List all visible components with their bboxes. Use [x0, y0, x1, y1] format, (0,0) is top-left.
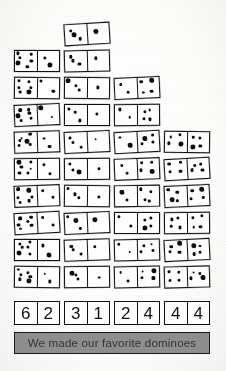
domino-row: [13, 103, 213, 128]
domino-pip: [28, 112, 31, 115]
domino-tile[interactable]: [114, 238, 161, 261]
number-domino-half-left: 2: [115, 302, 138, 324]
domino-pip: [30, 195, 33, 198]
domino-pip: [177, 270, 180, 273]
domino-tile[interactable]: [164, 265, 211, 288]
domino-pip: [178, 161, 181, 164]
domino-pip: [167, 141, 170, 144]
domino-half-left: [15, 78, 38, 98]
domino-half-left: [115, 132, 139, 153]
domino-tile[interactable]: [14, 239, 60, 261]
domino-tile[interactable]: [114, 266, 160, 289]
domino-pip: [18, 57, 21, 60]
domino-pip: [126, 280, 129, 283]
domino-tile[interactable]: [14, 103, 61, 127]
domino-tile[interactable]: [113, 130, 160, 154]
domino-tile[interactable]: [64, 104, 110, 126]
domino-tile[interactable]: [64, 185, 110, 208]
domino-tile[interactable]: [64, 77, 110, 99]
domino-pip: [170, 225, 173, 228]
domino-tile[interactable]: [164, 131, 210, 154]
domino-tile[interactable]: [13, 211, 60, 236]
domino-tile[interactable]: [64, 238, 111, 262]
domino-half-left: [15, 51, 38, 71]
domino-half-left: [65, 213, 88, 234]
domino-pip: [78, 119, 81, 122]
number-domino-tile[interactable]: 31: [64, 301, 110, 325]
domino-tile[interactable]: [64, 49, 111, 72]
domino-tile[interactable]: [64, 211, 111, 235]
domino-pip: [47, 252, 52, 257]
domino-half-left: [15, 105, 38, 126]
domino-slot: [13, 265, 63, 290]
domino-pip: [150, 169, 155, 174]
domino-half-right: [87, 159, 109, 179]
domino-pip: [29, 143, 32, 146]
domino-pip: [152, 276, 155, 279]
domino-pip: [42, 244, 45, 247]
domino-pip: [143, 218, 146, 221]
domino-half-right: [137, 213, 159, 233]
domino-half-right: [187, 132, 209, 152]
domino-tile[interactable]: [114, 76, 161, 100]
domino-pip: [170, 245, 173, 248]
domino-tile[interactable]: [14, 50, 60, 72]
domino-pip: [119, 271, 122, 274]
domino-tile[interactable]: [163, 157, 210, 182]
domino-pip: [190, 189, 193, 192]
domino-tile[interactable]: [114, 104, 160, 126]
domino-half-left: [15, 132, 38, 153]
number-domino-tile[interactable]: 62: [14, 301, 60, 325]
domino-slot: [113, 103, 163, 128]
domino-tile[interactable]: [14, 158, 60, 180]
number-domino-half-right: 2: [38, 302, 60, 324]
number-domino-half-left: 4: [165, 302, 188, 324]
number-domino-half-left: 3: [65, 302, 88, 324]
domino-pip: [149, 225, 152, 228]
domino-tile[interactable]: [14, 266, 60, 289]
domino-tile[interactable]: [14, 77, 60, 100]
domino-slot: [13, 238, 63, 263]
domino-half-left: [115, 213, 138, 233]
number-domino-tile[interactable]: 44: [164, 301, 210, 325]
domino-slot: [113, 211, 163, 236]
domino-tile[interactable]: [164, 212, 210, 234]
domino-pip: [143, 198, 146, 201]
domino-tile[interactable]: [63, 22, 110, 47]
domino-tile[interactable]: [164, 184, 211, 208]
domino-pip: [17, 52, 20, 55]
domino-tile[interactable]: [64, 158, 110, 180]
domino-tile[interactable]: [114, 157, 161, 181]
domino-pip: [170, 218, 173, 221]
domino-tile[interactable]: [163, 238, 210, 262]
domino-pip: [66, 215, 69, 218]
number-domino-tile[interactable]: 24: [114, 301, 160, 325]
domino-pip: [142, 244, 145, 247]
domino-half-right: [37, 131, 59, 152]
domino-pip: [69, 137, 72, 140]
domino-pip: [17, 79, 20, 82]
domino-pip: [202, 196, 205, 199]
domino-pip: [193, 252, 196, 255]
domino-tile[interactable]: [114, 185, 160, 208]
domino-pip: [28, 199, 31, 202]
domino-tile[interactable]: [64, 266, 110, 289]
domino-slot: [113, 157, 163, 182]
domino-tile[interactable]: [14, 130, 61, 153]
domino-pip: [168, 270, 171, 273]
domino-pip: [29, 160, 32, 163]
domino-tile[interactable]: [14, 184, 61, 208]
domino-pip: [201, 169, 204, 172]
domino-pip: [191, 216, 194, 219]
domino-pip: [26, 90, 31, 95]
domino-pip: [140, 161, 143, 164]
domino-pip: [128, 250, 131, 253]
number-domino-half-left: 6: [15, 302, 38, 324]
domino-row: [13, 265, 213, 290]
domino-pip: [151, 268, 156, 273]
domino-tile[interactable]: [64, 130, 111, 154]
domino-pip: [200, 275, 205, 280]
domino-pip: [43, 56, 46, 59]
number-domino-slot: 44: [163, 301, 213, 326]
domino-tile[interactable]: [114, 212, 160, 234]
